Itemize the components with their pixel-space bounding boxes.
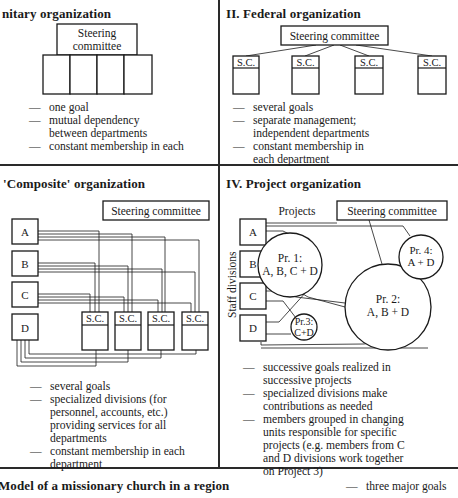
- footer-bullets: three major goals: [346, 480, 458, 493]
- svg-text:C: C: [249, 290, 256, 302]
- project-division-d: D: [240, 315, 266, 341]
- svg-text:Pr.3:: Pr.3:: [295, 316, 314, 327]
- footer-title: Model of a missionary church in a region: [0, 478, 229, 494]
- svg-text:Pr. 4:: Pr. 4:: [409, 244, 432, 256]
- project-division-a: A: [240, 219, 266, 245]
- bullet-item: members grouped in changing units respon…: [243, 413, 413, 478]
- svg-text:Pr. 2:: Pr. 2:: [376, 293, 400, 305]
- svg-text:A, B + D: A, B + D: [367, 306, 409, 319]
- staff-divisions-label: Staff divisions: [226, 251, 238, 318]
- bullet-item: successive goals realized in successive …: [243, 361, 393, 387]
- project-circle-pr1: Pr. 1: A, B, C + D: [258, 233, 322, 297]
- svg-text:D: D: [249, 322, 257, 334]
- svg-text:B: B: [249, 258, 256, 270]
- bullet-item: specialized divisions make contributions…: [243, 387, 403, 413]
- svg-text:A + D: A + D: [408, 256, 435, 268]
- projects-label: Projects: [278, 205, 316, 218]
- project-steering-label: Steering committee: [347, 205, 437, 218]
- svg-text:A: A: [249, 226, 257, 238]
- project-division-c: C: [240, 283, 266, 309]
- bullet-item: three major goals: [346, 480, 458, 493]
- project-circle-pr3: Pr.3: C+D: [291, 314, 317, 340]
- svg-text:Pr. 1:: Pr. 1:: [278, 252, 302, 264]
- svg-text:C+D: C+D: [294, 327, 314, 338]
- project-bullets: successive goals realized in successive …: [243, 361, 413, 478]
- project-circle-pr4: Pr. 4: A + D: [399, 235, 443, 279]
- svg-text:A, B, C + D: A, B, C + D: [262, 265, 318, 278]
